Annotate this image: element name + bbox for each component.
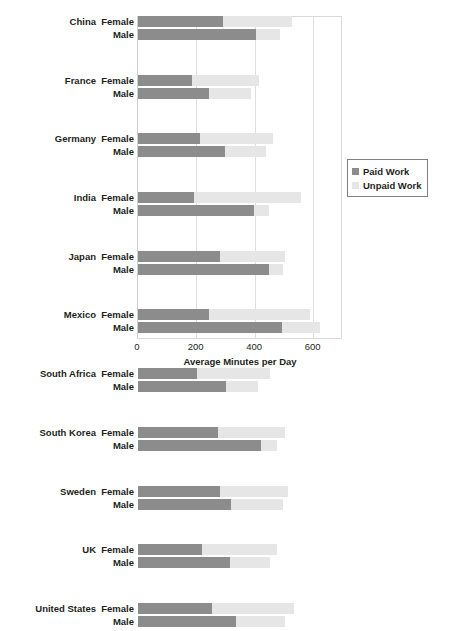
bar-row: ChinaFemale	[0, 16, 450, 27]
bar-segment-paid-work	[138, 557, 230, 568]
legend-label-unpaid: Unpaid Work	[363, 180, 421, 191]
bar-row: Male	[0, 499, 450, 510]
stacked-bar	[138, 616, 285, 627]
bar-row: FranceFemale	[0, 75, 450, 86]
stacked-bar	[138, 205, 269, 216]
bar-row: MexicoFemale	[0, 309, 450, 320]
legend-item-unpaid-work: Unpaid Work	[352, 178, 421, 192]
sex-label: Female	[98, 427, 134, 438]
stacked-bar	[138, 146, 266, 157]
bar-row: Male	[0, 440, 450, 451]
bar-segment-unpaid-work	[209, 88, 251, 99]
stacked-bar	[138, 251, 285, 262]
bar-row: JapanFemale	[0, 251, 450, 262]
stacked-bar	[138, 75, 259, 86]
bar-segment-unpaid-work	[230, 557, 270, 568]
stacked-bar	[138, 603, 294, 614]
stacked-bar	[138, 440, 277, 451]
bar-row: Male	[0, 264, 450, 275]
legend-swatch-unpaid-icon	[352, 182, 359, 189]
sex-label: Male	[98, 381, 134, 392]
country-group: South KoreaFemaleMale	[0, 427, 450, 486]
bar-segment-unpaid-work	[209, 309, 310, 320]
bar-segment-paid-work	[138, 309, 209, 320]
country-group: SwedenFemaleMale	[0, 486, 450, 545]
stacked-bar	[138, 309, 310, 320]
sex-label: Male	[98, 264, 134, 275]
bar-segment-paid-work	[138, 322, 282, 333]
bar-row: South KoreaFemale	[0, 427, 450, 438]
country-label: South Africa	[0, 368, 96, 379]
country-group: ChinaFemaleMale	[0, 16, 450, 75]
bar-row: Male	[0, 322, 450, 333]
stacked-bar	[138, 16, 292, 27]
country-group: IndiaFemaleMale	[0, 192, 450, 251]
stacked-bar	[138, 264, 283, 275]
stacked-bar	[138, 427, 285, 438]
stacked-bar	[138, 133, 273, 144]
bar-segment-unpaid-work	[220, 251, 286, 262]
country-label: Japan	[0, 251, 96, 262]
country-group: South AfricaFemaleMale	[0, 368, 450, 427]
sex-label: Male	[98, 88, 134, 99]
bar-row: Male	[0, 616, 450, 627]
legend-swatch-paid-icon	[352, 168, 359, 175]
bar-segment-paid-work	[138, 616, 236, 627]
bar-row: Male	[0, 29, 450, 40]
legend-item-paid-work: Paid Work	[352, 164, 421, 178]
bar-segment-unpaid-work	[269, 264, 283, 275]
bar-segment-paid-work	[138, 192, 194, 203]
sex-label: Male	[98, 499, 134, 510]
bar-segment-paid-work	[138, 205, 254, 216]
country-label: China	[0, 16, 96, 27]
country-group: UKFemaleMale	[0, 544, 450, 603]
sex-label: Female	[98, 368, 134, 379]
sex-label: Female	[98, 603, 134, 614]
sex-label: Male	[98, 322, 134, 333]
x-axis-title: Average Minutes per Day	[137, 356, 343, 367]
sex-label: Male	[98, 557, 134, 568]
x-tick-label: 400	[246, 341, 262, 352]
bar-row: Male	[0, 381, 450, 392]
bar-segment-unpaid-work	[261, 440, 276, 451]
bar-segment-unpaid-work	[254, 205, 269, 216]
bar-segment-unpaid-work	[256, 29, 280, 40]
bar-segment-paid-work	[138, 440, 261, 451]
bar-segment-paid-work	[138, 251, 220, 262]
bar-segment-unpaid-work	[200, 133, 273, 144]
stacked-bar	[138, 499, 283, 510]
bar-segment-unpaid-work	[231, 499, 283, 510]
bar-segment-unpaid-work	[236, 616, 285, 627]
bar-segment-unpaid-work	[197, 368, 270, 379]
bar-segment-paid-work	[138, 368, 197, 379]
stacked-bar	[138, 192, 301, 203]
bar-segment-paid-work	[138, 603, 212, 614]
bar-segment-paid-work	[138, 544, 202, 555]
bar-segment-paid-work	[138, 381, 226, 392]
country-group: JapanFemaleMale	[0, 251, 450, 310]
bar-segment-unpaid-work	[226, 381, 258, 392]
sex-label: Female	[98, 309, 134, 320]
bar-segment-paid-work	[138, 146, 225, 157]
stacked-bar	[138, 322, 320, 333]
sex-label: Female	[98, 251, 134, 262]
country-label: UK	[0, 544, 96, 555]
bar-segment-unpaid-work	[192, 75, 259, 86]
bar-row: UKFemale	[0, 544, 450, 555]
sex-label: Male	[98, 440, 134, 451]
bar-segment-unpaid-work	[223, 16, 292, 27]
country-label: India	[0, 192, 96, 203]
bar-segment-paid-work	[138, 75, 192, 86]
x-tick-label: 0	[134, 341, 139, 352]
bar-row: Male	[0, 88, 450, 99]
stacked-bar	[138, 88, 251, 99]
bar-segment-paid-work	[138, 499, 231, 510]
bar-row: Male	[0, 205, 450, 216]
stacked-bar	[138, 557, 270, 568]
sex-label: Female	[98, 133, 134, 144]
bar-row: Male	[0, 557, 450, 568]
country-label: Germany	[0, 133, 96, 144]
sex-label: Female	[98, 192, 134, 203]
country-group: United StatesFemaleMale	[0, 603, 450, 631]
